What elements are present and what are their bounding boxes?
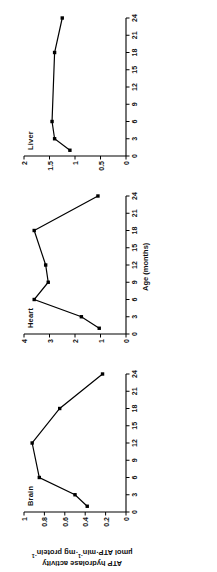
panel-liver: 00.511.5203691215182124Liver — [16, 14, 148, 182]
data-point-heart-4 — [44, 263, 47, 266]
atp-hydrolase-figure: ATP hydrolase activity µmol ATP·min-1·mg… — [0, 0, 217, 572]
y-tick-label-brain-5: 1 — [21, 517, 28, 521]
x-tick-label-heart-0: 0 — [131, 332, 138, 336]
y-axis-title-line2-mid: ·mg protein — [37, 548, 78, 557]
y-tick-label-heart-2: 2 — [72, 339, 79, 343]
y-tick-label-liver-4: 2 — [21, 161, 28, 165]
x-tick-label-liver-3: 9 — [131, 102, 138, 106]
x-tick-label-heart-5: 15 — [131, 244, 138, 252]
x-tick-label-heart-4: 12 — [131, 261, 138, 269]
x-tick-label-brain-2: 6 — [131, 476, 138, 480]
y-tick-label-liver-3: 1.5 — [46, 161, 53, 171]
y-tick-label-heart-0: 0 — [123, 339, 130, 343]
data-point-brain-5 — [101, 372, 104, 375]
x-tick-label-brain-6: 18 — [131, 405, 138, 413]
plot-area-liver — [16, 14, 148, 182]
x-tick-label-brain-0: 0 — [131, 510, 138, 514]
data-point-brain-2 — [38, 476, 41, 479]
data-point-heart-6 — [96, 194, 99, 197]
x-axis-title: Age (months) — [141, 243, 150, 291]
panel-label-brain: Brain — [26, 486, 35, 506]
x-tick-label-brain-8: 24 — [131, 370, 138, 378]
x-tick-label-heart-7: 21 — [131, 209, 138, 217]
data-point-heart-3 — [47, 281, 50, 284]
y-tick-label-brain-1: 0.2 — [102, 517, 109, 527]
data-point-heart-1 — [80, 315, 83, 318]
y-tick-label-heart-4: 4 — [21, 339, 28, 343]
x-tick-label-liver-6: 18 — [131, 49, 138, 57]
y-tick-label-brain-4: 0.8 — [41, 517, 48, 527]
data-line-liver — [52, 18, 70, 150]
y-axis-title-sup1: -1 — [78, 553, 83, 559]
x-tick-label-brain-7: 21 — [131, 387, 138, 395]
x-tick-label-liver-4: 12 — [131, 83, 138, 91]
data-point-heart-2 — [33, 298, 36, 301]
y-axis-title-line2: µmol ATP·min-1·mg protein-1 — [32, 548, 133, 559]
x-tick-label-liver-7: 21 — [131, 31, 138, 39]
data-point-brain-3 — [30, 441, 33, 444]
data-point-liver-1 — [53, 137, 56, 140]
data-point-liver-0 — [68, 149, 71, 152]
y-axis-title: ATP hydrolase activity µmol ATP·min-1·mg… — [16, 550, 148, 566]
data-point-brain-0 — [86, 505, 89, 508]
y-tick-label-liver-0: 0 — [123, 161, 130, 165]
x-tick-label-heart-8: 24 — [131, 192, 138, 200]
x-tick-label-brain-3: 9 — [131, 458, 138, 462]
y-tick-label-heart-3: 3 — [46, 339, 53, 343]
x-tick-label-heart-1: 3 — [131, 315, 138, 319]
data-point-heart-0 — [98, 327, 101, 330]
panel-brain: 00.20.40.60.8103691215182124Brain — [16, 370, 148, 538]
panel-label-liver: Liver — [26, 131, 35, 150]
plot-area-brain — [16, 370, 148, 538]
plot-area-heart — [16, 192, 148, 360]
data-point-liver-4 — [61, 16, 64, 19]
x-tick-label-heart-6: 18 — [131, 227, 138, 235]
data-point-liver-2 — [50, 120, 53, 123]
x-tick-label-brain-5: 15 — [131, 422, 138, 430]
x-tick-label-brain-4: 12 — [131, 439, 138, 447]
x-tick-label-heart-3: 9 — [131, 280, 138, 284]
y-tick-label-brain-2: 0.4 — [82, 517, 89, 527]
chart-svg-brain — [16, 370, 148, 538]
x-tick-label-liver-0: 0 — [131, 154, 138, 158]
chart-svg-heart — [16, 192, 148, 360]
y-axis-title-sup2: -1 — [32, 553, 37, 559]
data-point-heart-5 — [33, 229, 36, 232]
y-tick-label-heart-1: 1 — [97, 339, 104, 343]
data-point-brain-4 — [58, 407, 61, 410]
panel-heart: 0123403691215182124Heart — [16, 192, 148, 360]
x-tick-label-liver-5: 15 — [131, 66, 138, 74]
y-tick-label-liver-2: 1 — [72, 161, 79, 165]
data-line-brain — [32, 374, 102, 506]
data-point-brain-1 — [73, 493, 76, 496]
x-tick-label-liver-1: 3 — [131, 137, 138, 141]
data-line-heart — [34, 196, 99, 328]
x-tick-label-heart-2: 6 — [131, 298, 138, 302]
y-axis-title-line2-pre: µmol ATP·min — [83, 548, 133, 557]
y-axis-title-line1: ATP hydrolase activity — [32, 559, 133, 568]
y-tick-label-brain-0: 0 — [123, 517, 130, 521]
y-tick-label-liver-1: 0.5 — [97, 161, 104, 171]
panel-label-heart: Heart — [26, 308, 35, 328]
data-point-liver-3 — [53, 51, 56, 54]
chart-svg-liver — [16, 14, 148, 182]
x-tick-label-liver-2: 6 — [131, 120, 138, 124]
x-tick-label-liver-8: 24 — [131, 14, 138, 22]
figure-rotator: ATP hydrolase activity µmol ATP·min-1·mg… — [0, 0, 217, 572]
x-tick-label-brain-1: 3 — [131, 493, 138, 497]
y-tick-label-brain-3: 0.6 — [61, 517, 68, 527]
